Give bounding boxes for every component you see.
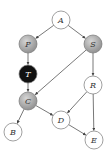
node-r: R xyxy=(84,76,102,94)
node-label: A xyxy=(57,16,64,25)
node-label: D xyxy=(57,116,65,125)
edge-d-e xyxy=(69,125,86,135)
node-label: B xyxy=(9,128,16,137)
edge-r-d xyxy=(67,92,87,113)
edge-s-c xyxy=(35,50,86,95)
node-d: D xyxy=(52,111,70,129)
edge-a-s xyxy=(68,25,85,38)
edge-c-d xyxy=(36,105,53,115)
node-label: E xyxy=(90,136,97,145)
edge-r-e xyxy=(93,94,94,131)
edge-a-p xyxy=(36,25,54,38)
node-b: B xyxy=(4,123,22,141)
node-s: S xyxy=(84,35,102,53)
node-label: P xyxy=(24,40,31,49)
node-t: T xyxy=(19,65,37,83)
node-e: E xyxy=(85,131,103,149)
node-a: A xyxy=(52,11,70,29)
node-label: C xyxy=(25,97,31,106)
node-p: P xyxy=(19,35,37,53)
nodes-layer: APSTRCDBE xyxy=(4,11,103,149)
node-c: C xyxy=(19,92,37,110)
graph-diagram: APSTRCDBE xyxy=(0,0,110,156)
node-label: T xyxy=(25,70,31,79)
node-label: R xyxy=(89,81,96,90)
node-label: S xyxy=(90,40,96,49)
edge-c-b xyxy=(17,109,24,123)
